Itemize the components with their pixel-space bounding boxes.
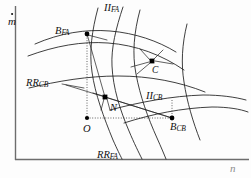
- label-b-fa-sub: FA: [61, 28, 69, 37]
- figure-container: m n IIFA BFA C RRCB IICB N O BCB RRFA: [0, 0, 251, 178]
- label-rr-cb: RRCB: [26, 78, 48, 89]
- label-rr-cb-base: RR: [26, 77, 39, 88]
- label-b-fa: BFA: [55, 26, 69, 37]
- curve-family-fa: [91, 7, 200, 159]
- label-point-n: N: [110, 103, 117, 114]
- label-point-c: C: [152, 66, 158, 76]
- label-point-c-text: C: [152, 65, 158, 75]
- label-point-n-text: N: [110, 102, 117, 113]
- marker-bcb: [170, 116, 175, 121]
- y-axis-label: m: [8, 16, 16, 27]
- label-b-cb: BCB: [170, 122, 186, 133]
- marker-n: [103, 95, 108, 100]
- label-rr-fa-sub: FA: [110, 152, 118, 161]
- marker-o: [85, 116, 89, 120]
- label-ii-cb: IICB: [146, 91, 162, 102]
- label-b-cb-sub: CB: [176, 124, 185, 133]
- label-rr-fa-base: RR: [97, 149, 110, 160]
- label-ii-fa: IIFA: [104, 3, 119, 14]
- label-point-o-text: O: [83, 123, 91, 134]
- curve-family-cb: [28, 31, 248, 123]
- label-ii-cb-base: II: [146, 90, 153, 101]
- curve-cb-5: [124, 107, 248, 123]
- label-ii-fa-base: II: [104, 2, 111, 13]
- label-ii-cb-sub: CB: [153, 93, 162, 102]
- curve-cb-2: [28, 43, 184, 70]
- curve-fa-3: [134, 10, 166, 159]
- curve-cb-3: [29, 76, 205, 92]
- label-point-o: O: [83, 124, 91, 135]
- label-rr-cb-sub: CB: [39, 80, 48, 89]
- y-axis-label-text: m: [8, 16, 16, 27]
- diagram-canvas: [0, 0, 251, 178]
- x-axis-label: n: [230, 163, 236, 174]
- whisker-n-down: [101, 99, 104, 110]
- marker-c: [150, 59, 155, 64]
- label-rr-fa: RRFA: [97, 150, 118, 161]
- whisker-n-left: [93, 93, 103, 96]
- x-axis-label-text: n: [230, 162, 236, 174]
- label-ii-fa-sub: FA: [111, 5, 119, 14]
- marker-bfa: [85, 32, 90, 37]
- whisker-bfa-right: [88, 35, 107, 40]
